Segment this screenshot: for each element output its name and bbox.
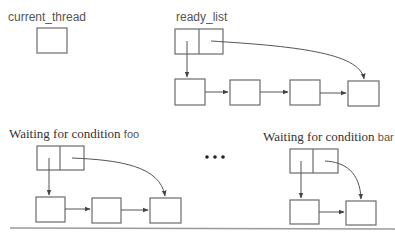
bottom-rule: [10, 228, 395, 229]
foo-tail-arrow: [72, 158, 165, 196]
bar-node-2: [346, 201, 376, 225]
ready-node-2: [230, 80, 260, 105]
ready-node-4: [348, 81, 379, 106]
ready-node-1: [175, 79, 205, 105]
bar-tail-arrow: [325, 161, 361, 199]
foo-node-2: [92, 198, 121, 223]
current-thread-box: [37, 28, 67, 53]
thread-queue-diagram: [0, 0, 395, 235]
ready-tail-arrow: [211, 41, 364, 79]
foo-node-1: [36, 197, 65, 222]
ellipsis-dots: [205, 155, 225, 159]
ready-node-3: [290, 80, 320, 105]
foo-node-3: [150, 198, 181, 223]
bar-header: [290, 149, 338, 173]
bar-node-1: [290, 200, 319, 224]
